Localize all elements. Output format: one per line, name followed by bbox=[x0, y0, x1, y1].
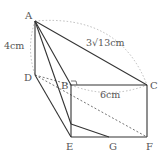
edge-a-to-be bbox=[35, 21, 71, 124]
dimension-ac: 3√13cm bbox=[86, 37, 125, 48]
label-d: D bbox=[24, 72, 32, 83]
dimension-bc: 6cm bbox=[100, 89, 120, 100]
label-f: F bbox=[146, 141, 153, 152]
label-c: C bbox=[150, 80, 158, 91]
edge-ac bbox=[35, 21, 147, 85]
right-angle-marker bbox=[71, 81, 77, 85]
dimension-ad: 4cm bbox=[4, 40, 24, 51]
edge-ab bbox=[35, 21, 71, 85]
label-e: E bbox=[66, 141, 73, 152]
edge-df-hidden bbox=[35, 75, 147, 137]
label-g: G bbox=[109, 141, 117, 152]
label-a: A bbox=[24, 10, 33, 21]
dimension-arc-ad bbox=[31, 21, 36, 75]
edge-be-to-g bbox=[71, 124, 109, 137]
label-b: B bbox=[61, 80, 68, 91]
geometry-diagram: A D B C E G F 4cm 3√13cm 6cm bbox=[0, 0, 167, 154]
